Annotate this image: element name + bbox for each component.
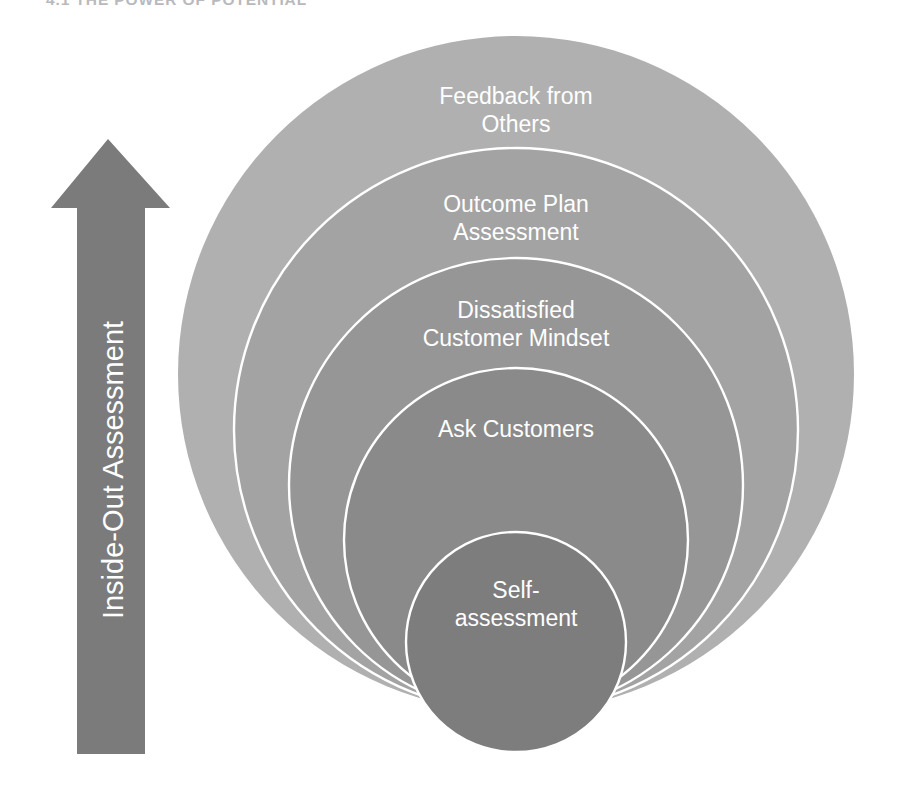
ring-self-assessment[interactable]: Self- assessment: [406, 532, 626, 752]
ring-4-label-line-1: Ask Customers: [438, 416, 594, 442]
ring-1-label-line-2: Others: [481, 111, 550, 137]
inside-out-assessment-arrow: Inside-Out Assessment: [51, 139, 170, 754]
inside-out-assessment-figure: Inside-Out Assessment Feedback from Othe…: [0, 0, 899, 795]
ring-5-label-line-1: Self-: [492, 577, 539, 603]
ring-2-label-line-1: Outcome Plan: [443, 191, 589, 217]
diagram-canvas: 4.1 THE POWER OF POTENTIAL Inside-Out As…: [0, 0, 899, 795]
concentric-circles-group: Feedback from Others Outcome Plan Assess…: [178, 36, 854, 752]
ring-5-label-line-2: assessment: [455, 605, 578, 631]
ring-3-label-line-2: Customer Mindset: [423, 325, 610, 351]
ring-2-label-line-2: Assessment: [453, 219, 579, 245]
arrow-label: Inside-Out Assessment: [97, 321, 129, 619]
ring-3-label-line-1: Dissatisfied: [457, 297, 575, 323]
ring-5-circle[interactable]: [406, 532, 626, 752]
ring-1-label-line-1: Feedback from: [439, 83, 592, 109]
